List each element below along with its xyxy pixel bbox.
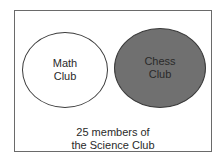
chess-club-circle: Chess Club — [114, 28, 206, 108]
universe-caption: 25 members of the Science Club — [14, 126, 212, 152]
math-club-label: Math Club — [53, 57, 77, 83]
math-club-circle: Math Club — [22, 32, 108, 108]
chess-club-label: Chess Club — [144, 55, 175, 81]
